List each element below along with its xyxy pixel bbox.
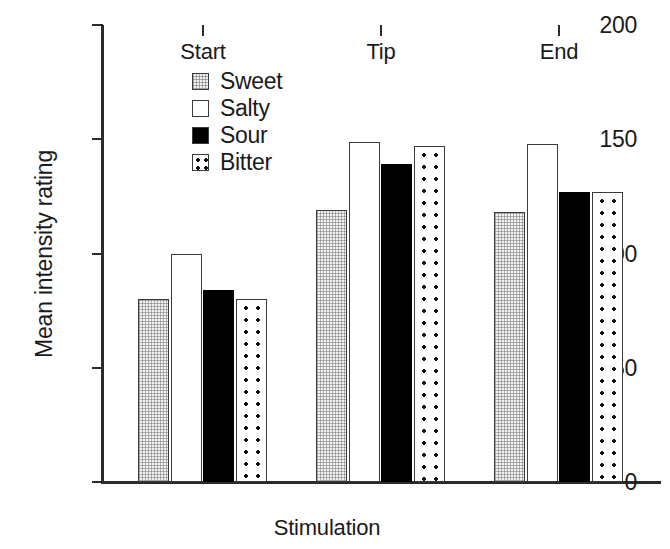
bar-tip-salty xyxy=(349,142,380,482)
legend-item-sweet: Sweet xyxy=(192,68,282,94)
bar-end-sour xyxy=(559,192,590,482)
x-axis-tick xyxy=(558,25,560,36)
bar-end-bitter xyxy=(592,192,623,482)
bar-tip-bitter xyxy=(414,146,445,482)
legend-label: Sweet xyxy=(220,70,282,93)
y-axis-tick xyxy=(92,138,103,140)
legend-label: Salty xyxy=(220,97,270,120)
bar-start-salty xyxy=(171,254,202,483)
y-axis-tick xyxy=(92,367,103,369)
bar-start-sour xyxy=(203,290,234,482)
bar-chart-figure: Mean intensity rating 050100150200StartT… xyxy=(0,0,670,549)
y-axis-tick xyxy=(92,481,103,483)
x-axis-title: Stimulation xyxy=(0,515,670,541)
x-axis-tick xyxy=(380,25,382,36)
y-axis-tick xyxy=(92,24,103,26)
bar-tip-sweet xyxy=(316,210,347,482)
legend-item-sour: Sour xyxy=(192,122,282,148)
legend-label: Bitter xyxy=(220,151,272,174)
legend-item-bitter: Bitter xyxy=(192,149,282,175)
legend-swatch-bitter-icon xyxy=(192,154,209,171)
bar-start-bitter xyxy=(236,299,267,482)
y-axis-tick-label: 150 xyxy=(600,126,637,153)
legend-swatch-sour-icon xyxy=(192,127,209,144)
plot-area: 050100150200StartTipEnd xyxy=(103,25,655,482)
x-axis-tick-label: Start xyxy=(180,39,225,65)
y-axis-tick-label: 0 xyxy=(625,469,638,496)
bar-end-sweet xyxy=(494,212,525,482)
x-axis-tick-label: End xyxy=(540,39,579,65)
y-axis-tick xyxy=(92,253,103,255)
x-axis-title-text: Stimulation xyxy=(274,515,381,540)
x-axis-tick-label: Tip xyxy=(366,39,395,65)
legend-item-salty: Salty xyxy=(192,95,282,121)
y-axis-title-text: Mean intensity rating xyxy=(31,149,58,357)
legend-swatch-salty-icon xyxy=(192,100,209,117)
bar-start-sweet xyxy=(138,299,169,482)
legend-swatch-sweet-icon xyxy=(192,73,209,90)
x-axis-tick xyxy=(202,25,204,36)
legend-label: Sour xyxy=(220,124,267,147)
bar-end-salty xyxy=(527,144,558,482)
bar-tip-sour xyxy=(381,164,412,482)
y-axis-tick-label: 200 xyxy=(600,12,637,39)
chart-legend: SweetSaltySourBitter xyxy=(192,68,282,175)
